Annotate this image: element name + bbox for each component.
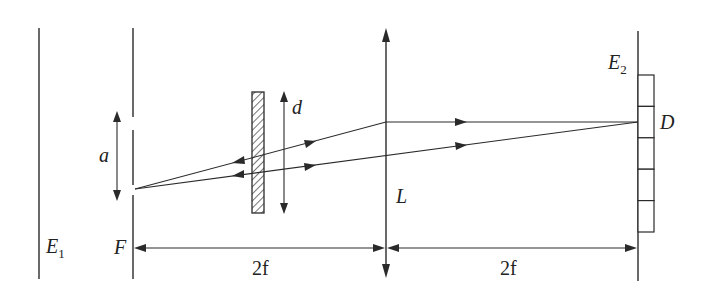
aperture-label: F — [113, 236, 127, 258]
distance-right-label: 2f — [500, 257, 517, 279]
slit-width-label: a — [99, 144, 109, 166]
aperture-screen-f: F — [113, 28, 133, 279]
screen-e1: E1 — [39, 28, 65, 279]
screen-e2-label: E2 — [607, 51, 627, 77]
ray-arrow-right-upper — [304, 140, 316, 148]
detector-point-label: D — [659, 111, 675, 133]
screen-e1-label: E1 — [45, 235, 65, 261]
plate-width-arrow: d — [280, 91, 303, 214]
distance-left-label: 2f — [252, 257, 269, 279]
hatched-plate — [252, 92, 264, 213]
ray-arrow-right-lower — [304, 163, 316, 171]
detector-array — [638, 75, 654, 232]
slit-width-arrow: a — [99, 111, 121, 201]
screen-e2: E2 D — [607, 31, 675, 281]
optics-diagram: E1 F a d L — [0, 0, 709, 294]
lens-label: L — [395, 185, 407, 207]
plate-width-label: d — [292, 96, 303, 118]
ray-arrow-right-top — [455, 118, 467, 126]
ray-arrow-right-bottom — [455, 142, 467, 150]
ray-arrow-left-lower — [232, 170, 244, 178]
ray-arrow-left-upper — [232, 156, 245, 164]
